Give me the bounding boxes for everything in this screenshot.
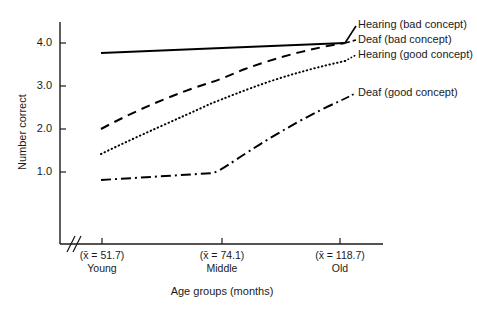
series-line-hearing-good-concept bbox=[101, 61, 345, 154]
x-group-old-name: Old bbox=[285, 262, 395, 275]
series-line-deaf-good-concept bbox=[101, 100, 342, 180]
x-group-young: (x̄ = 51.7) Young bbox=[47, 249, 157, 275]
legend-item-deaf-good-concept: Deaf (good concept) bbox=[358, 86, 458, 99]
series-line-hearing-bad-concept bbox=[101, 43, 345, 53]
x-group-middle-name: Middle bbox=[167, 262, 277, 275]
y-tick-label-4: 4.0 bbox=[22, 37, 52, 48]
legend-stub-hearing-good bbox=[345, 55, 356, 61]
y-tick-label-3: 3.0 bbox=[22, 80, 52, 91]
chart-figure: 4.0 3.0 2.0 1.0 Number correct (x̄ = 51.… bbox=[0, 0, 477, 309]
y-axis-title: Number correct bbox=[16, 94, 28, 170]
legend-item-deaf-bad-concept: Deaf (bad concept) bbox=[358, 33, 452, 46]
x-group-old-mean: (x̄ = 118.7) bbox=[285, 249, 395, 262]
x-axis-title: Age groups (months) bbox=[122, 285, 322, 297]
legend-item-hearing-good-concept: Hearing (good concept) bbox=[358, 48, 473, 61]
x-group-young-mean: (x̄ = 51.7) bbox=[47, 249, 157, 262]
legend-stub-deaf-good bbox=[342, 93, 356, 100]
x-group-middle: (x̄ = 74.1) Middle bbox=[167, 249, 277, 275]
legend-item-hearing-bad-concept: Hearing (bad concept) bbox=[358, 18, 467, 31]
x-group-middle-mean: (x̄ = 74.1) bbox=[167, 249, 277, 262]
x-group-young-name: Young bbox=[47, 262, 157, 275]
x-group-old: (x̄ = 118.7) Old bbox=[285, 249, 395, 275]
